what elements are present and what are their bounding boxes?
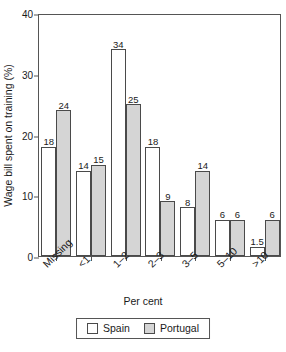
bar-portugal[interactable]: 15 [91,165,106,256]
bar-slot: 25 [126,15,141,256]
bar-slot: 6 [230,15,245,256]
bar-value-label: 34 [113,40,124,50]
legend-label-spain: Spain [103,323,130,334]
bar-spain[interactable]: 34 [111,49,126,256]
y-axis-title: Wage bill spent on training (%) [2,14,14,257]
bar-portugal[interactable]: 25 [126,104,141,256]
legend-swatch-portugal [144,323,155,334]
bar-slot: 6 [215,15,230,256]
bar-value-label: 8 [185,198,190,208]
legend-label-portugal: Portugal [160,323,199,334]
bar-value-label: 14 [197,161,208,171]
bar-slot: 14 [76,15,91,256]
bar-value-label: 6 [220,210,225,220]
bar-slot: 9 [160,15,175,256]
bar-slot: 18 [145,15,160,256]
bar-group: 3425 [108,15,143,256]
bar-slot: 8 [180,15,195,256]
bar-group: 189 [143,15,178,256]
bar-value-label: 9 [165,192,170,202]
chart-legend: Spain Portugal [76,318,210,339]
bar-value-label: 1.5 [251,237,264,247]
bar-slot: 34 [111,15,126,256]
bar-value-label: 25 [128,95,139,105]
bar-spain[interactable]: 14 [76,171,91,256]
legend-item-portugal: Portugal [144,323,199,334]
bar-slot: 1.5 [250,15,265,256]
bar-portugal[interactable]: 9 [160,201,175,256]
plot-area: 010203040 182414153425189814661.56 [38,14,281,257]
bar-slot: 18 [41,15,56,256]
legend-swatch-spain [87,323,98,334]
bar-value-label: 14 [78,161,89,171]
legend-item-spain: Spain [87,323,130,334]
bar-group: 814 [178,15,213,256]
bar-slot: 6 [265,15,280,256]
bar-group: 1415 [74,15,109,256]
bar-group: 1.56 [247,15,282,256]
y-tick-mark [34,258,39,259]
bar-slot: 24 [56,15,71,256]
bar-series-container: 182414153425189814661.56 [39,15,280,256]
bar-portugal[interactable]: 24 [56,110,71,256]
x-axis-title: Per cent [0,296,286,307]
bar-value-label: 18 [44,137,55,147]
bar-group: 1824 [39,15,74,256]
bar-value-label: 24 [59,101,70,111]
bar-group: 66 [213,15,248,256]
bar-slot: 14 [195,15,210,256]
bar-value-label: 6 [235,210,240,220]
bar-value-label: 6 [269,210,274,220]
bar-spain[interactable]: 18 [41,147,56,256]
bar-slot: 15 [91,15,106,256]
bar-portugal[interactable]: 6 [265,220,280,256]
bar-chart-figure: Wage bill spent on training (%) 01020304… [0,0,286,352]
bar-spain[interactable]: 18 [145,147,160,256]
bar-portugal[interactable]: 14 [195,171,210,256]
bar-value-label: 15 [93,155,104,165]
bar-value-label: 18 [148,137,159,147]
